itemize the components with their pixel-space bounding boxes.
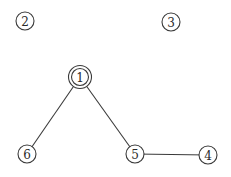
edges: [27, 77, 208, 155]
node-1-label: 1: [76, 71, 84, 85]
edge-1-6: [27, 77, 80, 154]
node-2-label: 2: [21, 15, 29, 29]
node-4-label: 4: [204, 149, 212, 163]
node-3: 3: [162, 13, 180, 31]
edge-5-4: [135, 154, 208, 155]
node-5-label: 5: [131, 148, 139, 162]
nodes: 1 2 3 4 5 6: [16, 12, 217, 164]
edge-1-5: [80, 77, 135, 154]
node-5: 5: [126, 145, 144, 163]
node-6-label: 6: [23, 148, 31, 162]
node-4: 4: [199, 146, 217, 164]
node-1: 1: [69, 66, 92, 89]
node-3-label: 3: [167, 16, 175, 30]
graph-diagram: 1 2 3 4 5 6: [0, 0, 231, 177]
node-2: 2: [16, 12, 34, 30]
node-6: 6: [18, 145, 36, 163]
